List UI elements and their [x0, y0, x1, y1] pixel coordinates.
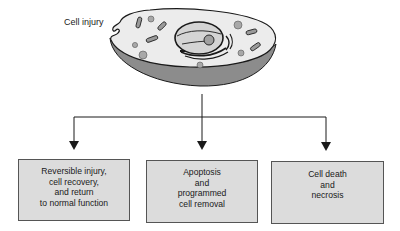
outcome-text-line: to normal function: [40, 198, 108, 209]
outcome-text-line: necrosis: [312, 190, 344, 201]
outcome-box-necrosis: Cell death and necrosis: [271, 161, 384, 224]
arrow-down-icon: [321, 142, 331, 151]
arrow-down-icon: [197, 141, 207, 150]
cell-illustration-icon: [110, 9, 276, 86]
outcome-text-line: and return: [54, 187, 93, 198]
outcome-text-line: Reversible injury,: [41, 166, 106, 177]
outcome-box-reversible-injury: Reversible injury, cell recovery, and re…: [18, 159, 130, 221]
cell-injury-label: Cell injury: [64, 17, 104, 27]
outcome-text-line: Cell death: [308, 169, 347, 180]
outcome-text-line: programmed: [178, 188, 227, 199]
outcome-text-line: Apoptosis: [183, 167, 221, 178]
outcome-text-line: and: [320, 180, 334, 191]
outcome-text-line: cell removal: [179, 199, 225, 210]
outcome-text-line: cell recovery,: [49, 177, 99, 188]
outcome-text-line: and: [195, 178, 209, 189]
arrow-down-icon: [69, 141, 79, 150]
outcome-box-apoptosis: Apoptosis and programmed cell removal: [146, 160, 258, 223]
arrowheads: [69, 141, 331, 151]
branch-connector: [74, 94, 326, 142]
